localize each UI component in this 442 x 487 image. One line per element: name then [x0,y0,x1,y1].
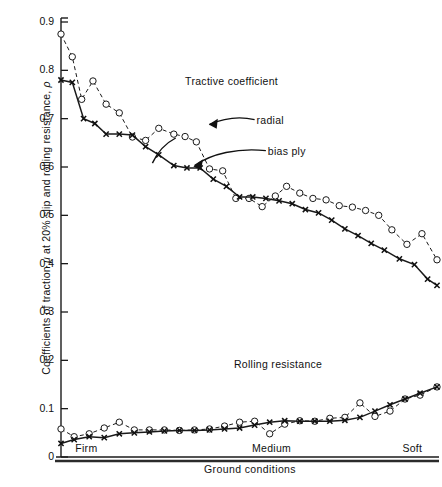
y-tick-label: 0.8 [24,63,54,75]
annotation-rolling-resistance: Rolling resistance [234,358,322,370]
plot-canvas [0,0,442,487]
series-rolling-resistance-bias-ply [58,384,439,446]
annotation-tractive-coefficient: Tractive coefficient [185,75,278,87]
y-tick-label: 0.9 [24,15,54,27]
series-tractive-coefficient-radial [58,31,440,263]
annotation-bias-ply: bias ply [268,145,306,157]
y-tick-label: 0.6 [24,160,54,172]
y-tick-label: 0.4 [24,257,54,269]
annotation-radial: radial [257,114,284,126]
y-tick-label: 0.2 [24,353,54,365]
x-tick-label-medium: Medium [252,442,291,454]
y-tick-label: 0 [24,450,54,462]
chart-figure: Coefficients of traction μ at 20% slip a… [0,0,442,487]
y-tick-label: 0.1 [24,402,54,414]
y-tick-label: 0.3 [24,305,54,317]
y-tick-label: 0.5 [24,208,54,220]
series-rolling-resistance-radial [58,384,440,440]
y-tick-label: 0.7 [24,112,54,124]
x-tick-label-soft: Soft [402,442,422,454]
series-tractive-coefficient-bias-ply [58,77,439,288]
x-tick-label-firm: Firm [75,442,97,454]
